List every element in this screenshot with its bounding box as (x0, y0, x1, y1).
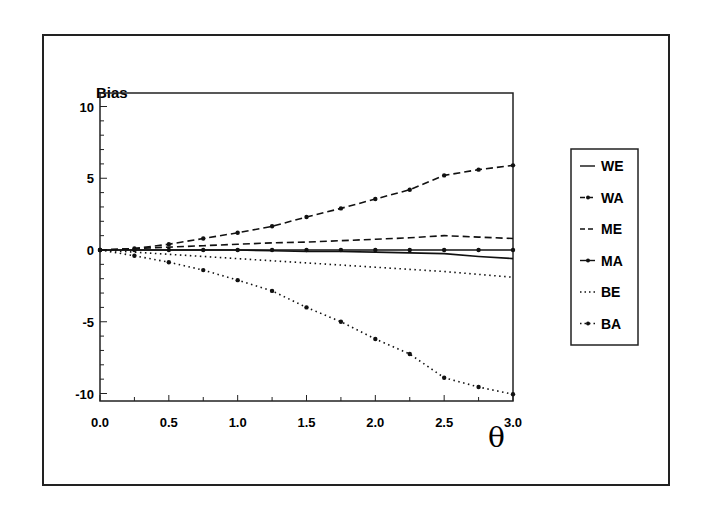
series-wa (98, 163, 515, 252)
y-tick-label: 0 (87, 243, 94, 258)
x-tick-label: 3.0 (504, 415, 522, 430)
legend-label: MA (601, 253, 623, 269)
legend: WEWAMEMABEBA (571, 149, 638, 345)
series-ma (98, 248, 515, 252)
y-tick-label: -5 (82, 315, 94, 330)
x-tick-label: 1.5 (297, 415, 315, 430)
plot-area (100, 93, 513, 401)
x-tick-label: 1.0 (229, 415, 247, 430)
y-tick-label: -10 (75, 387, 94, 402)
x-tick-label: 2.5 (435, 415, 453, 430)
legend-label: WE (601, 158, 624, 174)
x-tick-label: 0.5 (160, 415, 178, 430)
legend-label: ME (601, 221, 622, 237)
bias-chart: Bias 1050-5-10 0.00.51.01.52.02.53.0 θ W… (0, 0, 709, 514)
legend-label: BA (601, 316, 621, 332)
series-ba (98, 248, 515, 397)
data-series (98, 163, 515, 396)
x-axis-label: θ (488, 421, 505, 454)
y-tick-label: 5 (87, 171, 94, 186)
legend-label: BE (601, 284, 620, 300)
x-tick-label: 2.0 (366, 415, 384, 430)
y-tick-label: 10 (80, 100, 94, 115)
x-tick-label: 0.0 (91, 415, 109, 430)
legend-label: WA (601, 190, 624, 206)
